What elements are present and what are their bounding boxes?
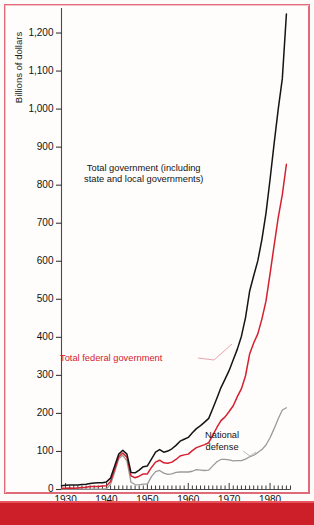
y-axis-tick-label: 500 [12, 294, 54, 304]
y-axis-tick-label: 600 [12, 256, 54, 266]
annotation-line: Total federal government [60, 353, 162, 364]
annotation-line: defense [205, 441, 239, 453]
annotation-line: National [205, 429, 239, 441]
series-line-national-defense [62, 14, 287, 486]
chart-page: Billions of dollars 1,2001,1001,00090080… [0, 0, 314, 525]
y-axis-tick-label: 700 [12, 218, 54, 228]
annotation-line: Total government (including [84, 163, 203, 174]
y-axis-tick-label: 800 [12, 180, 54, 190]
y-axis-tick-label: 400 [12, 332, 54, 342]
annotation-line: state and local governments) [84, 174, 203, 185]
y-axis-tick-label: 1,000 [12, 104, 54, 114]
series-label-national-defense: Nationaldefense [205, 429, 239, 453]
y-axis-tick-label: 300 [12, 370, 54, 380]
y-axis-tick-label: 900 [12, 142, 54, 152]
leader-line-total-federal-government [198, 344, 232, 360]
footer-red-bar [0, 503, 314, 525]
y-axis-tick-label: 0 [12, 484, 54, 494]
series-label-total-federal-government: Total federal government [60, 353, 162, 364]
series-line-total-government [62, 408, 287, 489]
y-axis-tick-label: 200 [12, 408, 54, 418]
y-axis-tick-label: 1,200 [12, 28, 54, 38]
y-axis-tick-label: 100 [12, 446, 54, 456]
y-axis-tick-label: 1,100 [12, 66, 54, 76]
series-label-total-government: Total government (includingstate and loc… [84, 163, 203, 185]
series-line-total-federal-government [62, 164, 287, 488]
